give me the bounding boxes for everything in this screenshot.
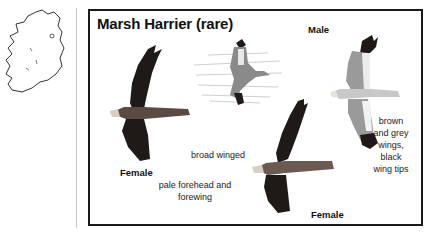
label-pale-forehead: pale forehead and forewing (150, 179, 240, 203)
label-female-left: Female (120, 167, 153, 179)
label-male-wings: brown and grey wings, black wing tips (366, 115, 416, 175)
label-broad-winged: broad winged (191, 149, 245, 161)
species-card: Marsh Harrier (rare) Male Female Fem (88, 9, 423, 226)
ireland-map-icon (2, 8, 68, 96)
label-female-center: Female (311, 209, 344, 221)
label-male: Male (308, 24, 329, 36)
vertical-divider (76, 8, 77, 228)
species-title: Marsh Harrier (rare) (97, 15, 233, 32)
female-harrier-center-illustration (242, 97, 342, 217)
female-harrier-left-illustration (104, 43, 192, 163)
